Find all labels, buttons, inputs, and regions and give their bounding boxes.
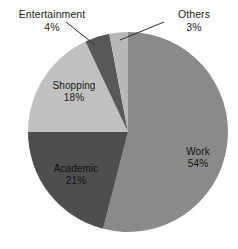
pie-label-work: Work 54%	[168, 146, 228, 170]
pie-chart: Work 54% Academic 21% Shopping 18% Enter…	[0, 0, 238, 249]
pie-label-entertainment-value: 4%	[2, 21, 102, 34]
pie-label-entertainment: Entertainment 4%	[2, 8, 102, 34]
pie-label-academic: Academic 21%	[38, 163, 114, 187]
pie-label-others-value: 3%	[166, 21, 222, 34]
pie-label-work-value: 54%	[168, 158, 228, 170]
pie-label-work-name: Work	[168, 146, 228, 158]
pie-label-entertainment-name: Entertainment	[2, 8, 102, 21]
pie-label-shopping: Shopping 18%	[36, 80, 112, 104]
pie-label-shopping-value: 18%	[36, 92, 112, 104]
pie-label-others: Others 3%	[166, 8, 222, 34]
pie-label-shopping-name: Shopping	[36, 80, 112, 92]
pie-label-academic-name: Academic	[38, 163, 114, 175]
pie-label-others-name: Others	[166, 8, 222, 21]
pie-label-academic-value: 21%	[38, 175, 114, 187]
pie-chart-canvas	[0, 0, 238, 249]
